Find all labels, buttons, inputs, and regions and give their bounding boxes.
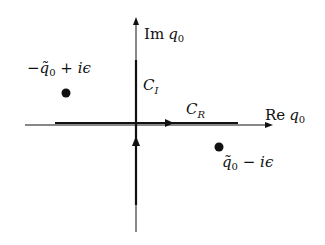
contour-c-r-label: CR [186,100,205,120]
lower-right-pole-label: q̃0 − iϵ [222,153,274,172]
upper-left-pole-dot [62,89,71,98]
contour-diagram: Imq0 Req0 CI CR −q̃0 + iϵ q̃0 − iϵ [0,0,325,245]
contour-c-i-label: CI [143,76,159,96]
contour-c-r [55,119,238,127]
imag-axis-label: Imq0 [144,25,184,44]
lower-right-pole-dot [215,143,224,152]
c-i-direction-arrow-icon [132,136,140,146]
upper-left-pole-label: −q̃0 + iϵ [27,59,91,78]
imag-axis-arrow-icon [133,17,139,25]
real-axis-label: Req0 [265,106,305,125]
contour-c-i [132,60,140,205]
c-r-direction-arrow-icon [165,119,174,127]
diagram-canvas: Imq0 Req0 CI CR −q̃0 + iϵ q̃0 − iϵ [0,0,325,245]
